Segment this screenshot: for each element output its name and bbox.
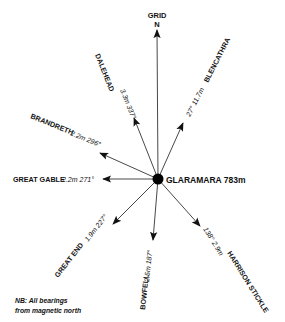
label-brandreth: BRANDRETH <box>29 112 75 137</box>
measure-brandreth: 2.2m 296° <box>69 129 102 148</box>
grid-north-indicator: GRID N <box>148 11 167 179</box>
arrow-blencathra-icon <box>158 123 183 179</box>
route-brandreth: BRANDRETH 2.2m 296° <box>29 112 158 179</box>
arrow-great-end-icon <box>113 179 158 224</box>
route-great-gable: GREAT GABLE 2.2m 271° <box>13 175 158 184</box>
note-line-2: from magnetic north <box>15 307 81 315</box>
measure-dalehead: 3.3m 337° <box>119 88 138 120</box>
label-blencathra: BLENCATHRA <box>202 36 232 84</box>
route-great-end: GREAT END 1.9m 227° <box>52 179 158 279</box>
measure-bowfell: 2.5m 187° <box>143 249 153 283</box>
measure-great-gable: 2.2m 271° <box>61 176 94 183</box>
measure-great-end: 1.9m 227° <box>83 213 108 243</box>
arrow-harrison-stickle-icon <box>158 179 200 226</box>
note-line-1: NB: All bearings <box>15 297 68 305</box>
measure-blencathra: 27° 11.7m <box>184 86 205 118</box>
route-harrison-stickle: 138° 2.9m HARRISON STICKLE <box>158 179 271 315</box>
label-dalehead: DALEHEAD <box>93 52 116 92</box>
label-harrison-stickle: HARRISON STICKLE <box>225 249 270 314</box>
label-great-gable: GREAT GABLE <box>13 175 65 184</box>
bearing-diagram: GRID N DALEHEAD 3.3m 337° 27° 11.7m BLEN… <box>0 0 285 322</box>
arrow-bowfell-icon <box>153 179 158 240</box>
grid-label: GRID <box>148 11 167 20</box>
north-label: N <box>154 20 159 29</box>
summit-point-icon <box>153 174 164 185</box>
summit-label: GLARAMARA 783m <box>166 175 246 185</box>
label-great-end: GREAT END <box>52 241 85 279</box>
measure-harrison-stickle: 138° 2.9m <box>202 226 225 257</box>
route-bowfell: BOWFELL 2.5m 187° <box>138 179 158 310</box>
route-dalehead: DALEHEAD 3.3m 337° <box>93 52 158 179</box>
north-arrow-icon <box>157 30 158 179</box>
route-blencathra: 27° 11.7m BLENCATHRA <box>158 36 232 179</box>
